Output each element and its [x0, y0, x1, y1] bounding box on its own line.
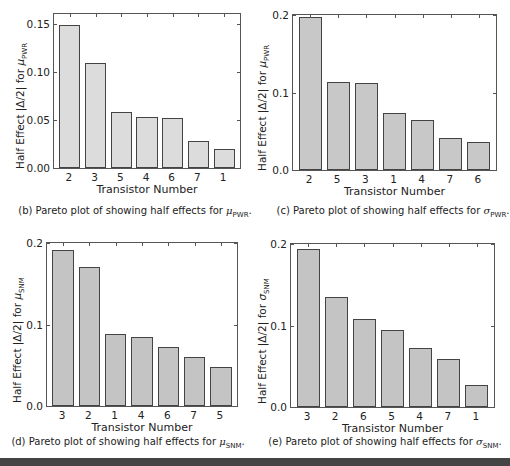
- y-axis-label: Half Effect |Δ/2| for μPWR: [14, 43, 29, 169]
- caption-subscript: SNM: [483, 442, 499, 450]
- x-tick-mark: [195, 243, 196, 246]
- x-axis-label: Transistor Number: [53, 183, 241, 196]
- bar-7: [184, 357, 206, 406]
- y-tick-label: 0.2: [13, 238, 43, 248]
- bar-3: [52, 250, 74, 406]
- y-tick-mark: [54, 168, 57, 169]
- y-tick-mark: [293, 15, 296, 16]
- x-tick-label: 4: [412, 173, 432, 185]
- bar-2: [79, 267, 101, 406]
- y-tick-mark-right: [234, 406, 237, 407]
- x-tick-mark: [451, 15, 452, 18]
- caption-text: (b) Pareto plot of showing half effects …: [18, 205, 226, 216]
- y-axis-label: Half Effect |Δ/2| for σSNM: [256, 278, 271, 404]
- x-tick-mark: [364, 244, 365, 247]
- bar-6: [353, 319, 376, 407]
- x-tick-mark: [224, 14, 225, 17]
- x-tick-mark: [366, 15, 367, 18]
- bar-7: [188, 141, 209, 168]
- caption-period: .: [241, 436, 244, 447]
- bar-7: [439, 138, 462, 170]
- x-tick-mark: [449, 244, 450, 247]
- bar-6: [158, 347, 180, 406]
- y-axis-label-subscript: SNM: [263, 278, 271, 294]
- bar-5: [381, 330, 404, 407]
- y-axis-label: Half Effect |Δ/2| for μSNM: [11, 277, 26, 403]
- caption-period: .: [499, 436, 502, 447]
- y-tick-label: 0.2: [259, 10, 289, 20]
- y-axis-label-symbol: μ: [256, 60, 268, 67]
- bar-2: [325, 297, 348, 407]
- x-tick-label: 1: [466, 410, 486, 422]
- bar-5: [111, 112, 132, 168]
- bar-6: [467, 142, 490, 170]
- bar-5: [327, 82, 350, 170]
- x-tick-mark: [142, 243, 143, 246]
- y-tick-mark-right: [237, 24, 240, 25]
- y-tick-mark: [293, 93, 296, 94]
- x-tick-label: 4: [131, 409, 151, 421]
- caption-subscript: PWR: [233, 211, 249, 219]
- caption-subscript: PWR: [490, 211, 506, 219]
- x-tick-label: 2: [59, 171, 79, 183]
- bar-2: [59, 25, 80, 168]
- y-axis-label-subscript: PWR: [263, 44, 271, 60]
- plot-area: [292, 14, 497, 171]
- x-tick-label: 7: [184, 409, 204, 421]
- x-tick-mark: [338, 15, 339, 18]
- x-tick-label: 3: [355, 173, 375, 185]
- y-tick-mark: [47, 243, 50, 244]
- y-axis-label-text: Half Effect |Δ/2| for: [14, 66, 26, 169]
- y-tick-mark-right: [491, 407, 494, 408]
- x-tick-label: 7: [440, 173, 460, 185]
- x-tick-mark: [423, 15, 424, 18]
- y-tick-mark: [291, 326, 294, 327]
- y-tick-mark-right: [493, 15, 496, 16]
- figure-caption: (e) Pareto plot of showing half effects …: [255, 436, 510, 450]
- x-tick-label: 6: [353, 410, 373, 422]
- x-tick-label: 6: [157, 409, 177, 421]
- x-tick-mark: [173, 14, 174, 17]
- x-tick-label: 6: [162, 171, 182, 183]
- y-tick-mark-right: [237, 120, 240, 121]
- y-tick-mark-right: [491, 326, 494, 327]
- bar-3: [297, 249, 320, 407]
- y-tick-mark-right: [237, 168, 240, 169]
- x-axis-label: Transistor Number: [46, 421, 238, 434]
- page-bottom-border: [0, 458, 510, 466]
- x-tick-label: 2: [299, 173, 319, 185]
- y-tick-mark: [47, 325, 50, 326]
- x-tick-label: 3: [52, 409, 72, 421]
- x-tick-mark: [116, 243, 117, 246]
- y-tick-mark: [47, 406, 50, 407]
- caption-text: (c) Pareto plot of showing half effects …: [276, 205, 483, 216]
- caption-text: (e) Pareto plot of showing half effects …: [268, 436, 476, 447]
- x-tick-mark: [336, 244, 337, 247]
- bar-7: [437, 359, 460, 407]
- y-axis-label-subscript: SNM: [18, 277, 26, 293]
- x-tick-mark: [198, 14, 199, 17]
- y-tick-mark-right: [234, 243, 237, 244]
- caption-symbol: σ: [476, 436, 483, 447]
- x-tick-mark: [147, 14, 148, 17]
- y-axis-label: Half Effect |Δ/2| for μPWR: [256, 44, 271, 170]
- x-tick-mark: [121, 14, 122, 17]
- bar-1: [105, 334, 127, 406]
- y-tick-mark-right: [234, 325, 237, 326]
- y-tick-mark: [293, 170, 296, 171]
- x-tick-mark: [168, 243, 169, 246]
- x-tick-label: 5: [327, 173, 347, 185]
- y-tick-mark-right: [237, 72, 240, 73]
- x-tick-mark: [63, 243, 64, 246]
- bar-3: [355, 83, 378, 170]
- plot-area: [46, 242, 238, 407]
- plot-area: [53, 13, 241, 169]
- caption-period: .: [249, 205, 252, 216]
- y-axis-label-symbol: μ: [14, 59, 26, 66]
- y-axis-label-text: Half Effect |Δ/2| for: [256, 67, 268, 170]
- y-tick-mark: [291, 244, 294, 245]
- x-tick-label: 2: [78, 409, 98, 421]
- bar-2: [299, 17, 322, 170]
- figure-caption: (c) Pareto plot of showing half effects …: [263, 205, 510, 219]
- bar-1: [465, 385, 488, 407]
